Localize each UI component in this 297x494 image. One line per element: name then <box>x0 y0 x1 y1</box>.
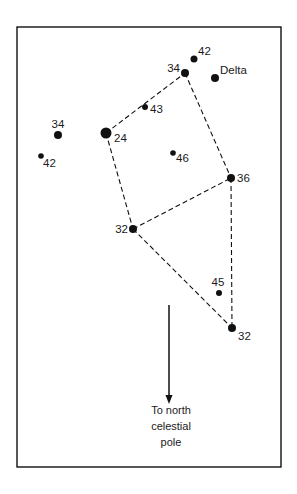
star-dot-s34_top <box>181 69 189 77</box>
caption-line-2: celestial <box>151 420 191 432</box>
star-label-s42_left: 42 <box>43 157 56 169</box>
star-dot-s46 <box>170 150 176 156</box>
stars-layer <box>38 56 236 333</box>
star-label-s36: 36 <box>237 172 250 184</box>
star-label-s42_top: 42 <box>198 45 211 57</box>
star-label-s43: 43 <box>150 103 163 115</box>
star-label-s34_left: 34 <box>52 118 65 130</box>
star-chart-svg: 4234Delta432434424636324532 To north cel… <box>0 0 297 494</box>
caption-line-1: To north <box>151 404 191 416</box>
star-label-s46: 46 <box>176 152 189 164</box>
star-label-s45: 45 <box>212 276 225 288</box>
star-dot-s32_mid <box>129 225 137 233</box>
dashed-line-s24-s32_mid <box>106 133 133 229</box>
star-label-s32_mid: 32 <box>115 223 128 235</box>
star-chart: 4234Delta432434424636324532 To north cel… <box>0 0 297 494</box>
star-dot-s45 <box>216 290 222 296</box>
dashed-line-s36-s32_bot <box>231 178 232 328</box>
dashed-line-s24-s34_top <box>106 73 185 133</box>
star-dot-s24 <box>101 128 112 139</box>
dashed-line-s32_mid-s36 <box>133 178 231 229</box>
chart-frame <box>17 27 281 467</box>
arrow-head-icon <box>166 395 173 404</box>
star-dot-s32_bot <box>228 324 236 332</box>
star-dot-s43 <box>142 104 148 110</box>
star-label-s32_bot: 32 <box>238 330 251 342</box>
constellation-lines <box>106 73 232 328</box>
star-label-s24: 24 <box>114 132 127 144</box>
star-dot-s42_top <box>191 56 198 63</box>
north-pole-arrow <box>166 305 173 404</box>
star-labels: 4234Delta432434424636324532 <box>43 45 251 342</box>
star-label-delta: Delta <box>220 64 247 76</box>
star-dot-s34_left <box>54 131 62 139</box>
star-label-s34_top: 34 <box>167 62 180 74</box>
star-dot-s36 <box>227 174 235 182</box>
dashed-line-s34_top-s36 <box>185 73 231 178</box>
caption-line-3: pole <box>161 436 182 448</box>
star-dot-delta <box>211 74 219 82</box>
